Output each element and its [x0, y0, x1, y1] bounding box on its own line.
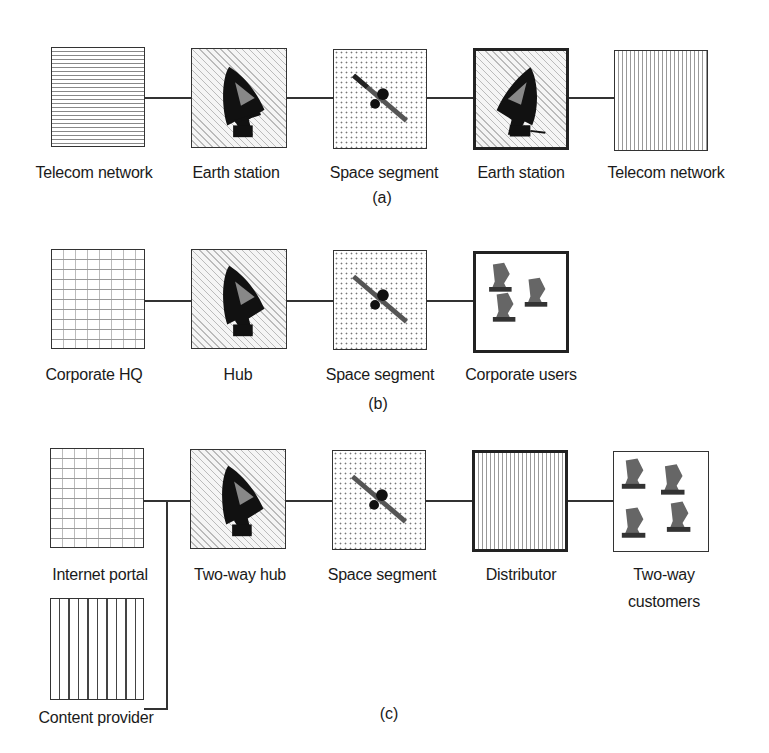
satellite-dish-icon — [192, 250, 286, 348]
connector-line — [286, 500, 333, 502]
corporate-hq-box — [51, 249, 145, 349]
row-caption: (a) — [372, 189, 392, 207]
satellite-dish-icon — [191, 450, 285, 548]
telecom-network-box-right — [614, 50, 708, 151]
content-provider-box — [50, 598, 144, 700]
small-dishes-icon — [614, 452, 708, 551]
satellite-icon — [333, 451, 425, 549]
node-label: Space segment — [330, 163, 439, 182]
node-label: Two-way — [633, 565, 695, 584]
node-label: Two-way hub — [194, 565, 286, 584]
earth-station-box-left — [191, 48, 287, 148]
connector-line — [427, 97, 473, 99]
internet-portal-box — [50, 448, 144, 548]
connector-line — [287, 97, 333, 99]
node-label: Space segment — [328, 565, 437, 584]
satellite-icon — [334, 50, 426, 148]
telecom-network-box-left — [51, 47, 145, 147]
satellite-dish-icon — [476, 51, 566, 147]
node-label: Earth station — [477, 163, 564, 182]
node-label: Earth station — [192, 163, 279, 182]
two-way-hub-box — [190, 449, 286, 549]
node-label: Corporate HQ — [45, 365, 142, 384]
node-label: Content provider — [38, 708, 153, 727]
connector-line-vertical — [166, 500, 168, 709]
node-label: Distributor — [486, 565, 557, 584]
earth-station-box-right — [473, 48, 569, 150]
node-label: Telecom network — [607, 163, 724, 182]
node-label: Space segment — [326, 365, 435, 384]
hub-box — [191, 249, 287, 349]
small-dishes-icon — [476, 254, 566, 350]
connector-line — [568, 500, 614, 502]
connector-line — [426, 500, 473, 502]
corporate-users-box — [473, 251, 569, 353]
satellite-dish-icon — [192, 49, 286, 147]
distributor-box — [472, 450, 568, 552]
connector-line — [145, 97, 191, 99]
two-way-customers-box — [613, 451, 709, 552]
connector-line — [144, 500, 191, 502]
row-caption: (c) — [380, 705, 399, 723]
node-label: Telecom network — [35, 163, 152, 182]
node-label: Corporate users — [465, 365, 577, 384]
space-segment-box — [332, 450, 426, 550]
node-label: Internet portal — [52, 565, 148, 584]
space-segment-box — [333, 250, 427, 350]
connector-line — [145, 300, 191, 302]
connector-line — [287, 300, 333, 302]
space-segment-box — [333, 49, 427, 149]
connector-line — [569, 97, 614, 99]
node-label: Hub — [224, 365, 253, 384]
node-label: customers — [628, 592, 700, 611]
satellite-icon — [334, 251, 426, 349]
row-caption: (b) — [368, 395, 388, 413]
connector-line — [427, 300, 473, 302]
